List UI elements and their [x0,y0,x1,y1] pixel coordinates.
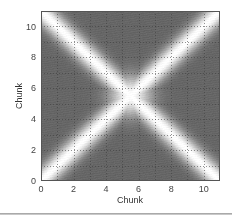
heatmap-plot-area [41,11,220,181]
bottom-divider [0,213,232,215]
x-tick-label: 0 [38,185,43,194]
y-axis-label: Chunk [14,83,24,109]
x-tick-label: 10 [199,185,209,194]
x-tick-label: 8 [169,185,174,194]
y-tick-label: 6 [31,84,36,93]
x-tick-label: 2 [71,185,76,194]
x-tick-label: 6 [136,185,141,194]
y-tick-label: 0 [31,177,36,186]
y-tick-label: 4 [31,115,36,124]
x-tick-label: 4 [103,185,108,194]
x-axis-label: Chunk [117,195,143,205]
similarity-matrix-figure: 0 2 4 6 8 10 0 2 4 6 8 10 Chunk Chunk [0,0,232,217]
y-tick-label: 10 [26,22,36,31]
y-tick-label: 2 [31,146,36,155]
y-tick-label: 8 [31,53,36,62]
